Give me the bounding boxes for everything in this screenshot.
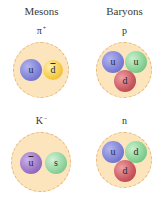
quark-anti-u: u <box>20 152 42 174</box>
quark-anti-d: d <box>43 60 63 80</box>
baryons-header: Baryons <box>83 5 166 17</box>
pion-plus-hadron: u d <box>13 42 69 98</box>
quark-s: s <box>45 152 67 174</box>
quark-d: d <box>114 160 136 182</box>
pion-plus-label: π+ <box>0 25 83 36</box>
kaon-minus-label: K− <box>0 115 83 126</box>
neutron-hadron: u d d <box>96 132 152 188</box>
proton-hadron: u u d <box>96 42 152 98</box>
kaon-minus-hadron: u s <box>11 132 71 192</box>
neutron-label: n <box>83 115 166 126</box>
quark-d: d <box>114 70 136 92</box>
quark-u: u <box>20 59 42 81</box>
proton-label: p <box>83 25 166 36</box>
mesons-header: Mesons <box>0 5 83 17</box>
